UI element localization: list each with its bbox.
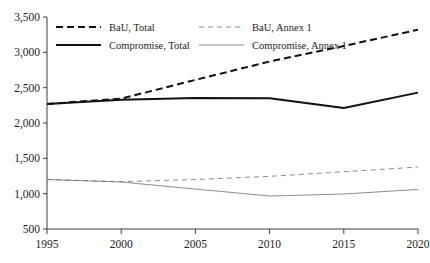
- y-tick-label: 1,500: [14, 152, 40, 165]
- legend-label-bau-total: BaU, Total: [109, 22, 155, 33]
- y-axis-tick-labels: 3,500 3,000 2,500 2,000 1,500 1,000 500: [14, 11, 40, 235]
- x-tick-label: 2020: [407, 238, 430, 250]
- chart-legend: BaU, Total BaU, Annex 1 Compromise, Tota…: [56, 22, 347, 51]
- y-tick-label: 2,000: [14, 117, 40, 130]
- y-tick-label: 1,000: [14, 188, 40, 201]
- x-axis-tick-labels: 1995 2000 2005 2010 2015 2020: [36, 238, 430, 250]
- series-line-bau-annex-1: [47, 167, 418, 182]
- chart-container: 3,500 3,000 2,500 2,000 1,500 1,000 500: [0, 0, 430, 263]
- y-tick-label: 3,500: [14, 11, 40, 24]
- series-line-compromise-total: [47, 93, 418, 108]
- x-tick-label: 2000: [110, 238, 133, 250]
- x-tick-label: 1995: [36, 238, 59, 250]
- legend-label-compromise-annex-1: Compromise, Annex 1: [252, 40, 347, 51]
- series-layer: [47, 30, 418, 196]
- x-tick-label: 2010: [258, 238, 281, 250]
- y-axis: [43, 17, 47, 229]
- x-tick-label: 2005: [184, 238, 207, 250]
- x-tick-label: 2015: [332, 238, 355, 250]
- y-tick-label: 500: [23, 223, 41, 235]
- series-line-bau-total: [47, 30, 418, 104]
- y-tick-label: 3,000: [14, 46, 40, 59]
- y-tick-label: 2,500: [14, 82, 40, 95]
- series-line-compromise-annex-1: [47, 180, 418, 196]
- legend-label-bau-annex-1: BaU, Annex 1: [252, 22, 312, 33]
- legend-label-compromise-total: Compromise, Total: [109, 40, 190, 51]
- line-chart-plot: 3,500 3,000 2,500 2,000 1,500 1,000 500: [0, 0, 430, 263]
- x-axis: [47, 229, 418, 234]
